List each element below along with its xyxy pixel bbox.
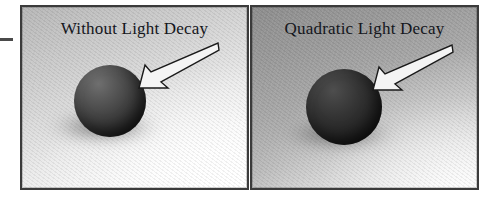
panel-title-without-light-decay: Without Light Decay <box>22 19 247 39</box>
light-decay-comparison-figure: Without Light Decay Quadratic Light Deca… <box>0 0 500 199</box>
scene-without-light-decay: Without Light Decay <box>22 7 247 188</box>
panel-without-light-decay: Without Light Decay <box>20 5 249 190</box>
sphere-quadratic-light-decay <box>306 69 382 145</box>
panel-quadratic-light-decay: Quadratic Light Decay <box>250 5 479 190</box>
sphere-without-light-decay <box>74 65 146 137</box>
pointer-arrow-icon <box>364 43 454 95</box>
scene-quadratic-light-decay: Quadratic Light Decay <box>252 7 477 188</box>
crop-mark-dash <box>0 38 13 41</box>
panel-title-quadratic-light-decay: Quadratic Light Decay <box>252 19 477 39</box>
